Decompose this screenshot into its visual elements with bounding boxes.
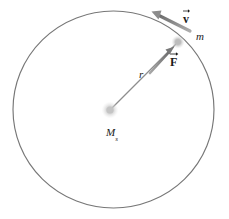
force-symbol-group: F <box>170 56 177 68</box>
force-vector-shaft <box>150 51 170 73</box>
force-vector-label: F <box>170 56 177 68</box>
central-mass-subscript: s <box>115 135 118 143</box>
velocity-vector-label: v <box>183 13 189 25</box>
orbiting-mass-dot <box>175 39 181 45</box>
diagram-canvas <box>0 0 229 219</box>
orbit-diagram: v F m r Ms <box>0 0 229 219</box>
velocity-symbol: v <box>183 12 189 26</box>
orbiting-mass-label: m <box>196 31 204 42</box>
velocity-vector-arrowhead <box>152 11 162 20</box>
force-symbol: F <box>170 55 177 69</box>
radius-label: r <box>139 69 143 80</box>
central-mass-dot <box>106 106 113 113</box>
velocity-symbol-group: v <box>183 13 189 25</box>
central-mass-symbol: M <box>106 126 115 138</box>
central-mass-label: Ms <box>106 127 118 141</box>
